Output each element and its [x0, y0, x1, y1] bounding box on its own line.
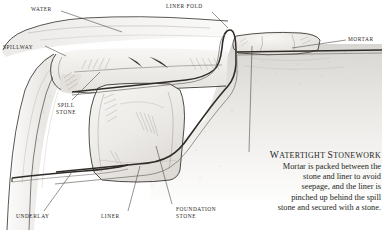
caption-heading-initial-w: W — [270, 149, 279, 160]
label-foundation-stone: FOUNDATION STONE — [176, 206, 216, 221]
label-water: WATER — [31, 6, 52, 13]
caption-line: Mortar is packed between the — [253, 162, 381, 172]
caption-line: stone and secured with a stone. — [253, 203, 381, 213]
label-liner-fold: LINER FOLD — [166, 3, 203, 10]
caption-block: WATERTIGHT STONEWORK Mortar is packed be… — [253, 150, 381, 214]
caption-line: pinched up behind the spill — [253, 193, 381, 203]
label-spillway: SPILLWAY — [3, 44, 33, 51]
label-underlay: UNDERLAY — [16, 213, 50, 220]
caption-heading: WATERTIGHT STONEWORK — [253, 150, 381, 161]
label-liner: LINER — [101, 213, 120, 220]
label-spill-stone: SPILL STONE — [48, 102, 84, 117]
caption-heading-word-2: TONEWORK — [333, 151, 381, 160]
label-mortar: MORTAR — [348, 36, 374, 43]
caption-line: stone and liner to avoid — [253, 172, 381, 182]
watertight-stonework-figure: WATER LINER FOLD MORTAR SPILLWAY SPILL S… — [0, 0, 382, 230]
caption-heading-word-1: ATERTIGHT — [279, 151, 327, 160]
caption-body: Mortar is packed between the stone and l… — [253, 162, 381, 214]
caption-line: seepage, and the liner is — [253, 182, 381, 192]
